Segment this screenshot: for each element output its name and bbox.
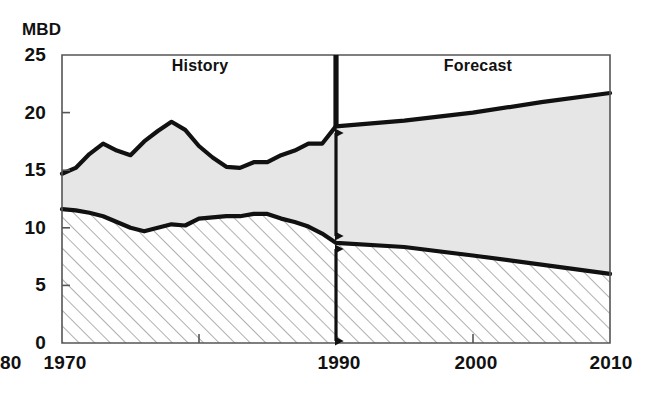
oil-supply-area-chart: MBD 25 20 15 10 5 0 1970 1980 1990 2000 … xyxy=(0,0,653,395)
chart-canvas xyxy=(0,0,653,395)
